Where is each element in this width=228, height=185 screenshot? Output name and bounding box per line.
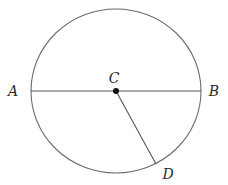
radius-cd [116,91,156,164]
point-label-b: B [209,84,219,98]
center-point-c [113,88,119,94]
point-label-c: C [109,71,120,85]
point-label-d: D [162,167,173,181]
circle-diagram [0,0,228,185]
point-label-a: A [8,84,18,98]
